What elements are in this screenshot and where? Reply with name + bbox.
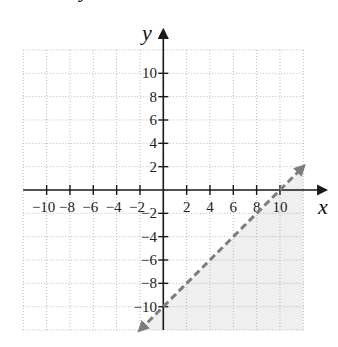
y-tick-label: −6: [141, 252, 157, 268]
x-tick-label: −10: [32, 199, 55, 215]
x-tick-label: 10: [272, 199, 287, 215]
y-tick-label: −8: [141, 275, 157, 291]
y-tick-label: 2: [150, 159, 158, 175]
x-tick-label: 2: [183, 199, 191, 215]
x-tick-label: −4: [106, 199, 122, 215]
y-tick-label: 6: [150, 112, 158, 128]
y-tick-label: 4: [150, 135, 158, 151]
y-tick-label: 8: [150, 89, 158, 105]
y-tick-label: 10: [142, 65, 157, 81]
y-tick-label: −4: [141, 229, 157, 245]
x-tick-label: −6: [82, 199, 98, 215]
top-caption-fragment: y: [78, 0, 90, 2]
x-tick-label: −8: [59, 199, 75, 215]
x-tick-label: 6: [230, 199, 238, 215]
y-axis-label: y: [140, 20, 152, 45]
x-axis-label: x: [317, 194, 328, 219]
inequality-graph: y −10−8−6−4−2246810108642−2−4−6−8−10 x y: [0, 0, 338, 347]
x-tick-label: 4: [206, 199, 214, 215]
y-tick-label: −10: [134, 299, 157, 315]
y-tick-label: −2: [141, 205, 157, 221]
